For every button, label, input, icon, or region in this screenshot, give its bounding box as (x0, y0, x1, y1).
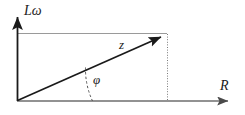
horizontal-axis-label: R (220, 79, 229, 93)
phase-angle-label: φ (93, 73, 100, 86)
vertical-axis-label: Lω (24, 4, 42, 18)
impedance-vector-line (18, 37, 162, 101)
impedance-phasor-diagram: Lω R z φ (0, 0, 245, 115)
phase-angle-arc (85, 68, 92, 102)
impedance-vector-label: z (119, 38, 124, 51)
